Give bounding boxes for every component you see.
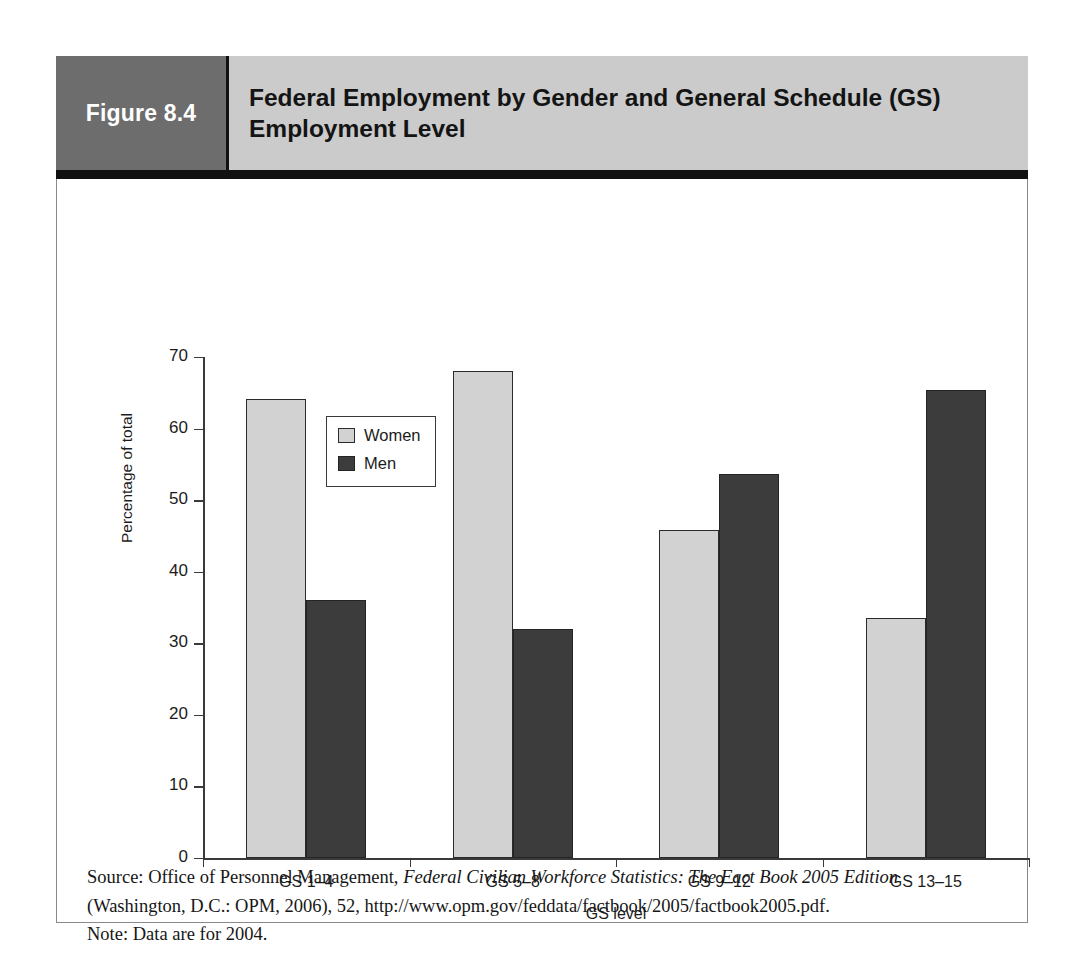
- y-axis-tick-label: 20: [128, 704, 188, 724]
- figure-header: Figure 8.4 Federal Employment by Gender …: [56, 56, 1028, 170]
- y-axis-tick: [194, 357, 203, 358]
- figure-container: Figure 8.4 Federal Employment by Gender …: [56, 56, 1028, 923]
- y-axis-tick-label: 70: [128, 346, 188, 366]
- legend-item-men: Men: [338, 454, 435, 473]
- figure-body-frame: Percentage of total 010203040506070 GS 1…: [56, 179, 1028, 923]
- figure-title-block: Federal Employment by Gender and General…: [229, 56, 1028, 170]
- legend-swatch-men-icon: [338, 456, 355, 471]
- source-line-2: (Washington, D.C.: OPM, 2006), 52, http:…: [87, 892, 1002, 921]
- chart-plot-area: Percentage of total 010203040506070 GS 1…: [57, 179, 1029, 859]
- bar-men-3: [926, 390, 986, 858]
- y-axis-tick-label: 10: [128, 775, 188, 795]
- y-axis-tick: [194, 572, 203, 573]
- y-axis-tick: [194, 858, 203, 859]
- y-axis-title: Percentage of total: [118, 368, 136, 588]
- y-axis-tick: [194, 429, 203, 430]
- y-axis-tick-label: 40: [128, 561, 188, 581]
- legend-label-men: Men: [364, 454, 396, 473]
- y-axis-tick-label: 60: [128, 418, 188, 438]
- bar-men-1: [513, 629, 573, 858]
- y-axis-line: [203, 357, 205, 859]
- y-axis-tick: [194, 715, 203, 716]
- figure-number-block: Figure 8.4: [56, 56, 229, 170]
- bar-women-3: [866, 618, 926, 858]
- y-axis-tick: [194, 643, 203, 644]
- bar-men-2: [719, 474, 779, 858]
- bar-women-1: [453, 371, 513, 858]
- figure-title: Federal Employment by Gender and General…: [249, 82, 949, 145]
- y-axis-tick-label: 30: [128, 632, 188, 652]
- source-publication-title: Federal Civilian Workforce Statistics: T…: [403, 867, 898, 887]
- bar-women-2: [659, 530, 719, 858]
- source-note-block: Source: Office of Personnel Management, …: [87, 863, 1002, 949]
- figure-number-label: Figure 8.4: [86, 100, 197, 127]
- y-axis-tick: [194, 500, 203, 501]
- source-note-line: Note: Data are for 2004.: [87, 920, 1002, 949]
- chart-legend: Women Men: [326, 416, 436, 487]
- y-axis-tick: [194, 786, 203, 787]
- legend-item-women: Women: [338, 426, 435, 445]
- bar-men-0: [306, 600, 366, 858]
- bar-women-0: [246, 399, 306, 858]
- legend-swatch-women-icon: [338, 428, 355, 443]
- source-line-1: Source: Office of Personnel Management, …: [87, 863, 1002, 892]
- header-underline-rule: [56, 170, 1028, 179]
- legend-label-women: Women: [364, 426, 421, 445]
- x-axis-tick: [1029, 858, 1030, 867]
- y-axis-tick-label: 50: [128, 489, 188, 509]
- source-prefix: Source: Office of Personnel Management,: [87, 867, 403, 887]
